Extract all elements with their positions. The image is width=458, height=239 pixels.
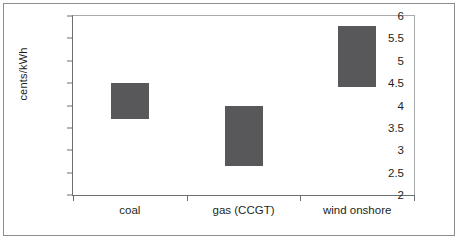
y-tick-mark: [67, 16, 73, 17]
y-tick-label: 3: [398, 144, 404, 156]
plot-area: 65.554.543.532.52 coalgas (CCGT)wind ons…: [72, 15, 415, 196]
bar-wind-onshore: [338, 26, 376, 87]
y-tick-label: 4.5: [388, 77, 404, 89]
x-tick-mark: [73, 195, 74, 201]
x-category-label: coal: [119, 204, 140, 216]
chart-figure: cents/kWh 65.554.543.532.52 coalgas (CCG…: [0, 0, 458, 239]
y-tick-mark: [67, 83, 73, 84]
x-tick-mark: [300, 195, 301, 201]
y-tick-mark: [67, 105, 73, 106]
x-tick-mark: [414, 195, 415, 201]
y-tick-mark: [67, 38, 73, 39]
y-tick-label: 5: [398, 55, 404, 67]
x-category-label: wind onshore: [323, 204, 391, 216]
y-tick-mark: [67, 150, 73, 151]
y-tick-label: 6: [398, 10, 404, 22]
y-axis-title: cents/kWh: [17, 29, 29, 119]
y-tick-mark: [67, 60, 73, 61]
y-tick-label: 5.5: [388, 32, 404, 44]
x-tick-mark: [187, 195, 188, 201]
y-tick-label: 2.5: [388, 167, 404, 179]
bar-gas-ccgt-: [225, 106, 263, 166]
bar-coal: [111, 83, 149, 119]
y-tick-label: 2: [398, 189, 404, 201]
y-tick-label: 3.5: [388, 122, 404, 134]
y-tick-mark: [67, 172, 73, 173]
x-category-label: gas (CCGT): [213, 204, 275, 216]
y-tick-label: 4: [398, 100, 404, 112]
y-tick-mark: [67, 127, 73, 128]
